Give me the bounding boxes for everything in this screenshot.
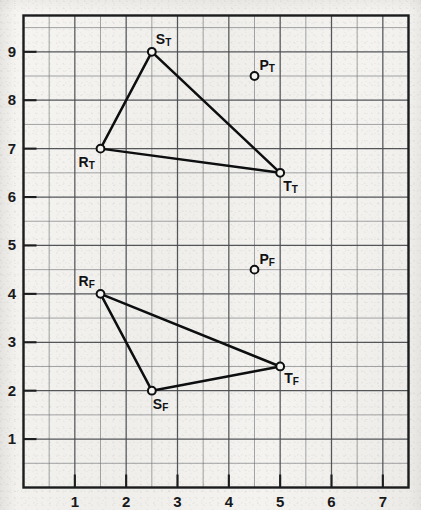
point-label-subscript: T: [165, 37, 171, 48]
x-axis-tick-label: 6: [324, 493, 340, 510]
data-point-marker: [97, 290, 105, 298]
point-label-subscript: T: [269, 63, 275, 74]
y-axis-tick-label: 1: [5, 430, 19, 447]
point-label-subscript: F: [89, 279, 95, 290]
data-point-marker: [251, 72, 259, 80]
y-axis-tick-label: 8: [5, 91, 19, 108]
point-label-base: S: [153, 396, 162, 412]
grid-major-lines: [24, 16, 409, 488]
x-axis-tick-label: 1: [67, 493, 83, 510]
point-label-base: P: [260, 251, 269, 267]
x-axis-tick-label: 5: [272, 493, 288, 510]
y-axis-tick-label: 4: [5, 285, 19, 302]
x-axis-tick-label: 2: [118, 493, 134, 510]
point-label: RT: [79, 155, 95, 169]
point-label: PT: [260, 58, 275, 72]
data-point-marker: [97, 145, 105, 153]
data-point-marker: [276, 363, 284, 371]
point-label-subscript: F: [162, 402, 168, 413]
y-axis-tick-label: 2: [5, 382, 19, 399]
plot-canvas: [0, 0, 421, 510]
y-axis-tick-label: 9: [5, 43, 19, 60]
point-label: TT: [283, 179, 298, 193]
point-label-subscript: F: [293, 376, 299, 387]
point-label-base: T: [284, 370, 293, 386]
point-label-subscript: F: [269, 257, 275, 268]
point-label: RF: [79, 274, 95, 288]
data-point-marker: [251, 266, 259, 274]
point-label: SF: [153, 397, 168, 411]
y-axis-tick-label: 6: [5, 188, 19, 205]
point-label: PF: [260, 252, 275, 266]
graph-paper-figure: 1234567891234567 RTSTTTRFSFTFPTPF: [0, 0, 421, 510]
y-axis-tick-label: 3: [5, 333, 19, 350]
data-point-marker: [148, 387, 156, 395]
y-axis-tick-label: 5: [5, 236, 19, 253]
point-label-base: R: [79, 273, 89, 289]
grid-minor-lines: [24, 16, 409, 488]
point-label-base: P: [260, 57, 269, 73]
x-axis-tick-label: 7: [375, 493, 391, 510]
point-label-base: R: [79, 154, 89, 170]
x-axis-tick-label: 4: [221, 493, 237, 510]
x-axis-tick-label: 3: [170, 493, 186, 510]
data-point-marker: [276, 169, 284, 177]
point-label-subscript: T: [89, 160, 95, 171]
data-point-marker: [148, 48, 156, 56]
plot-border: [24, 16, 409, 488]
point-label-base: T: [283, 178, 292, 194]
point-label: TF: [284, 371, 299, 385]
point-label: ST: [156, 32, 171, 46]
series-polygon: [101, 52, 281, 173]
point-label-base: S: [156, 31, 165, 47]
y-axis-tick-label: 7: [5, 140, 19, 157]
point-label-subscript: T: [292, 184, 298, 195]
